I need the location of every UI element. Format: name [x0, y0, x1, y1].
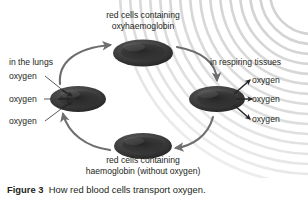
label-oxygen-right-1: oxygen [252, 75, 280, 86]
figure-caption: Figure 3 How red blood cells transport o… [7, 184, 301, 196]
cycle-arrow-lungs-to-top [60, 45, 110, 84]
label-oxygen-left-1: oxygen [9, 71, 37, 82]
label-oxygen-right-3: oxygen [252, 114, 280, 125]
label-oxygen-left-2: oxygen [9, 94, 37, 105]
label-oxyhaemoglobin: red cells containing oxyhaemoglobin [83, 10, 203, 31]
diagram-canvas: red cells containing oxyhaemoglobin red … [0, 0, 308, 178]
oxyhaemoglobin-cell [113, 40, 173, 67]
cycle-arrow-bottom-to-lungs [63, 114, 110, 150]
cycle-arrow-tissues-to-bottom [176, 117, 213, 148]
figure-caption-label: Figure 3 [7, 184, 43, 195]
oxygen-arrow-right-1 [234, 80, 250, 94]
oxygen-leader-left-1 [45, 76, 65, 92]
label-oxygen-right-2: oxygen [252, 94, 280, 105]
label-in-respiring-tissues: in respiring tissues [210, 57, 281, 68]
label-in-the-lungs: in the lungs [9, 57, 53, 68]
label-haemoglobin: red cells containing haemoglobin (withou… [62, 155, 224, 176]
oxygen-out-arrows-right [234, 80, 252, 119]
figure-3-red-blood-cell-oxygen-transport: red cells containing oxyhaemoglobin red … [0, 0, 308, 206]
label-oxygen-left-3: oxygen [9, 116, 37, 127]
figure-caption-text: How red blood cells transport oxygen. [49, 184, 206, 195]
oxygen-arrow-right-3 [234, 105, 250, 119]
oxygen-leader-left-3 [45, 106, 65, 121]
